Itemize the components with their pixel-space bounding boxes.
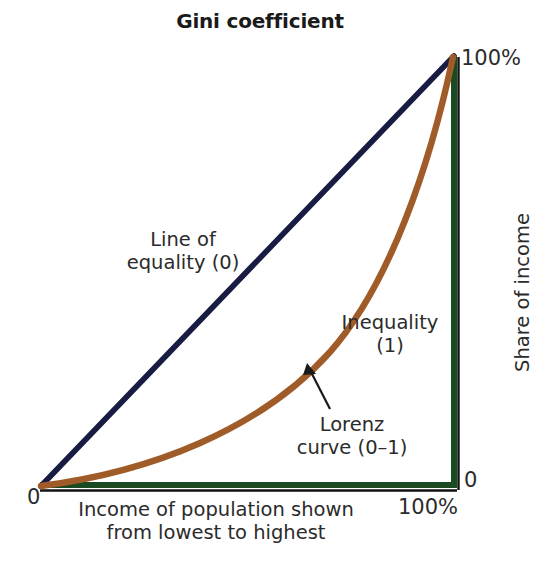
annotation-line-of-equality: Line of equality (0) <box>108 228 258 274</box>
annotation-lorenz-curve-line2: curve (0–1) <box>272 436 432 459</box>
x-axis-caption-line1: Income of population shown <box>36 498 396 521</box>
x-axis-caption: Income of population shown from lowest t… <box>36 498 396 545</box>
annotation-inequality-line2: (1) <box>334 334 446 357</box>
y-axis-tick-max: 100% <box>461 46 521 70</box>
annotation-inequality-line1: Inequality <box>334 311 446 334</box>
y-axis-caption: Share of income <box>511 188 534 398</box>
annotation-lorenz-curve: Lorenz curve (0–1) <box>272 413 432 459</box>
annotation-lorenz-curve-line1: Lorenz <box>272 413 432 436</box>
annotation-inequality: Inequality (1) <box>334 311 446 357</box>
y-axis-tick-min: 0 <box>464 468 477 492</box>
lorenz-leader-line <box>311 372 330 409</box>
annotation-line-of-equality-line2: equality (0) <box>108 251 258 274</box>
annotation-line-of-equality-line1: Line of <box>108 228 258 251</box>
x-axis-tick-max: 100% <box>398 495 458 519</box>
gini-coefficient-figure: Gini coefficient Line of equality (0) In… <box>0 0 547 576</box>
x-axis-caption-line2: from lowest to highest <box>36 521 396 544</box>
